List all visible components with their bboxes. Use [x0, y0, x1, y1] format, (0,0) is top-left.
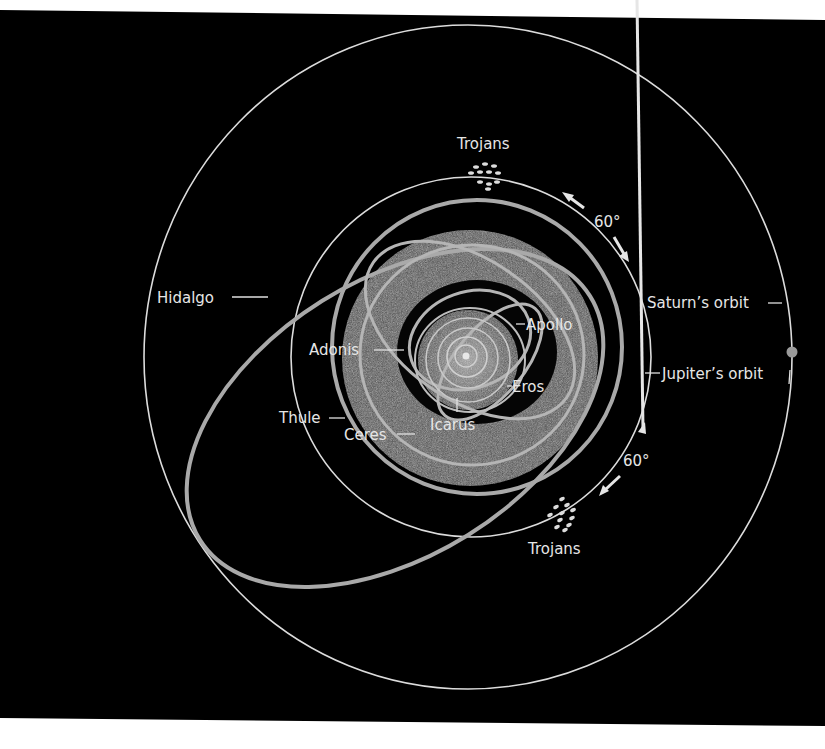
- label-thule: Thule: [278, 409, 321, 427]
- label-icarus: Icarus: [430, 416, 476, 434]
- label-trojans-bottom: Trojans: [527, 540, 581, 558]
- label-saturn-orbit: Saturn’s orbit: [647, 294, 749, 312]
- inner-solar-disk: [418, 310, 518, 410]
- label-apollo: Apollo: [526, 316, 572, 334]
- label-hidalgo: Hidalgo: [157, 289, 214, 307]
- solar-system-diagram: Trojans 60° Hidalgo Saturn’s orbit Jupit…: [0, 0, 825, 749]
- label-trojans-top: Trojans: [456, 135, 510, 153]
- label-jupiter-orbit: Jupiter’s orbit: [661, 365, 763, 383]
- label-angle-bottom: 60°: [623, 452, 650, 470]
- label-ceres: Ceres: [344, 426, 387, 444]
- sun: [463, 353, 470, 360]
- label-adonis: Adonis: [309, 341, 359, 359]
- saturn-dot: [787, 347, 798, 358]
- label-eros: Eros: [512, 378, 544, 396]
- label-angle-top: 60°: [594, 213, 621, 231]
